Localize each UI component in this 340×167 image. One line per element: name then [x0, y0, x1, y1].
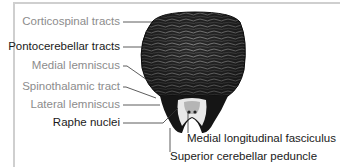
- label-medial-longitudinal-fasciculus: Medial longitudinal fasciculus: [187, 132, 336, 145]
- label-raphe-nuclei: Raphe nuclei: [53, 116, 120, 129]
- label-lateral-lemniscus: Lateral lemniscus: [31, 98, 120, 111]
- label-spinothalamic-tract: Spinothalamic tract: [22, 80, 120, 93]
- label-superior-cerebellar-peduncle: Superior cerebellar peduncle: [170, 150, 317, 163]
- label-corticospinal-tracts: Corticospinal tracts: [22, 15, 120, 28]
- label-pontocerebellar-tracts: Pontocerebellar tracts: [8, 40, 120, 53]
- label-medial-lemniscus: Medial lemniscus: [32, 59, 120, 72]
